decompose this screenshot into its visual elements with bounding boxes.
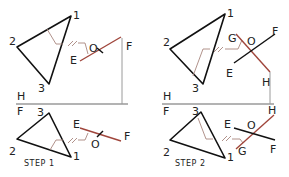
diagram-canvas: 1 2 3 E F O H F 3 2 1 E F O STEP 1 [0,0,289,177]
vertex-label-1: 1 [227,151,234,164]
projection-line [47,29,63,44]
line-end-label-e: E [73,118,80,131]
line-end-label-e: E [224,118,231,131]
step2-top-view: 1 2 3 E F G H O [163,7,278,104]
vertex-label-2: 2 [163,146,170,159]
line-ef [80,37,121,61]
line-end-label-f: F [272,25,278,38]
projection-line [232,139,243,143]
vertex-label-2: 2 [9,145,16,158]
vertex-label-3: 3 [192,82,199,95]
edge-label-h: H [262,76,270,89]
line-end-label-f: F [270,143,276,156]
fold-label-h: H [163,90,171,103]
projection-line [50,140,63,150]
edge-label-h: H [268,104,276,117]
fold-label-h: H [17,90,25,103]
line-end-label-f: F [124,130,130,143]
pierce-label-o: O [89,42,98,55]
vertex-label-3: 3 [38,82,45,95]
pierce-label-o: O [247,119,256,132]
step1-front-view: 3 2 1 E F O [9,106,130,163]
vertex-label-1: 1 [73,150,80,163]
edge-label-g: G [238,145,247,158]
fold-label-f: F [163,105,169,118]
triangle-plane [170,112,225,158]
triangle-plane [17,113,71,157]
projection-line [78,43,88,54]
edge-label-g: G [228,32,237,45]
step2-front-view: 3 2 1 E F G H O [163,104,276,164]
panel-step2: 1 2 3 E F G H O H F 3 2 1 E F G H O [163,7,278,168]
line-end-label-e: E [70,54,77,67]
projection-line [78,133,88,140]
line-end-label-e: E [226,67,233,80]
vertex-label-2: 2 [163,36,170,49]
step1-top-view: 1 2 3 E F O [9,9,132,104]
vertex-label-1: 1 [73,9,80,22]
panel-step1: 1 2 3 E F O H F 3 2 1 E F O STEP 1 [9,9,132,168]
triangle-plane [17,16,71,84]
vertex-label-3: 3 [192,105,199,118]
vertex-label-2: 2 [9,35,16,48]
pierce-label-o: O [91,138,100,151]
vertex-label-1: 1 [227,7,234,20]
pierce-label-o: O [247,35,256,48]
step-label: STEP 1 [24,159,54,168]
line-end-label-f: F [126,40,132,53]
vertex-label-3: 3 [37,106,44,119]
fold-label-f: F [17,105,23,118]
step-label: STEP 2 [175,159,205,168]
